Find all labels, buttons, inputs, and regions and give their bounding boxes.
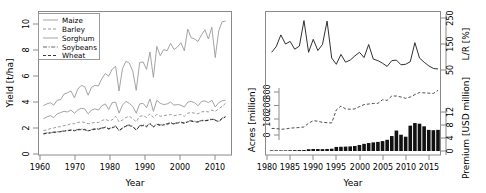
right-panel-xtick-1995: 1995 bbox=[326, 163, 346, 172]
right-panel-lr-tick-150: 150 bbox=[446, 36, 455, 51]
insurance-series-group bbox=[270, 21, 440, 151]
right-panel-x-axis-title: Year bbox=[342, 178, 362, 188]
left-panel-xtick-1970: 1970 bbox=[65, 163, 85, 172]
right-panel-acres-tick-300: 300 bbox=[263, 84, 272, 99]
right-panel-xtick-1990: 1990 bbox=[303, 163, 323, 172]
premium-bar bbox=[358, 145, 362, 151]
legend-label-wheat: Wheat bbox=[62, 51, 85, 60]
left-panel-ytick-4: 4 bbox=[22, 99, 31, 104]
premium-bar bbox=[316, 149, 320, 151]
premium-bar bbox=[307, 149, 311, 151]
left-panel-xtick-2000: 2000 bbox=[170, 163, 190, 172]
premium-bar bbox=[381, 141, 385, 151]
left-panel-y-tickmarks bbox=[33, 24, 38, 154]
premium-bar bbox=[404, 137, 408, 151]
premium-bar bbox=[395, 131, 399, 151]
right-panel-y-axis-title-left: Acres [million] bbox=[247, 88, 257, 153]
premium-bar bbox=[432, 130, 436, 151]
right-panel-acres-tick-200: 200 bbox=[263, 97, 272, 112]
right-panel-acres-tick-0: 0 bbox=[263, 132, 272, 137]
right-panel-xtick-1980: 1980 bbox=[257, 163, 277, 172]
premium-bar bbox=[371, 142, 375, 151]
premium-bar bbox=[293, 150, 297, 151]
left-panel-xtick-1990: 1990 bbox=[135, 163, 155, 172]
right-panel-x-tickmarks bbox=[267, 155, 429, 160]
right-panel-left-tickmarks bbox=[274, 88, 279, 140]
premium-bar bbox=[427, 130, 431, 151]
left-panel-ytick-0: 0 bbox=[22, 151, 31, 156]
left-panel-xtick-1960: 1960 bbox=[30, 163, 50, 172]
left-panel-xtick-1980: 1980 bbox=[100, 163, 120, 172]
crop-yield-panel: Yield [t/ha] 10 8 6 4 2 0 1960 1970 1980… bbox=[0, 0, 243, 193]
premium-bar bbox=[367, 143, 371, 151]
crop-yield-svg: Yield [t/ha] 10 8 6 4 2 0 1960 1970 1980… bbox=[0, 0, 243, 193]
premium-bar bbox=[422, 126, 426, 151]
premium-bar bbox=[348, 146, 352, 151]
right-panel-xtick-2005: 2005 bbox=[373, 163, 393, 172]
right-panel-xtick-2010: 2010 bbox=[396, 163, 416, 172]
premium-bar bbox=[302, 150, 306, 151]
premium-bar bbox=[330, 149, 334, 151]
premium-bar bbox=[436, 130, 440, 151]
premium-bar bbox=[418, 124, 422, 151]
premium-bar bbox=[344, 147, 348, 151]
premium-bar bbox=[413, 123, 417, 151]
premium-bar bbox=[362, 144, 366, 151]
left-panel-y-axis-title: Yield [t/ha] bbox=[5, 58, 15, 108]
right-panel-premium-tick-12: 12 bbox=[446, 107, 455, 117]
legend-label-barley: Barley bbox=[62, 25, 86, 34]
right-panel-xtick-2015: 2015 bbox=[419, 163, 439, 172]
right-panel-acres-tick-100: 100 bbox=[263, 111, 272, 126]
premium-bar bbox=[335, 147, 339, 151]
premium-bar bbox=[376, 142, 380, 151]
two-panel-figure: Yield [t/ha] 10 8 6 4 2 0 1960 1970 1980… bbox=[0, 0, 486, 193]
premium-bar bbox=[284, 150, 288, 151]
premium-bar bbox=[321, 149, 325, 151]
right-panel-premium-tick-4: 4 bbox=[446, 135, 455, 140]
premium-bar bbox=[270, 150, 274, 151]
right-panel-y-axis-title-premium: Premium [USD million] bbox=[461, 77, 471, 179]
left-panel-x-axis-title: Year bbox=[124, 178, 144, 188]
premium-bar bbox=[274, 150, 278, 151]
right-panel-premium-tick-0: 0 bbox=[446, 148, 455, 153]
legend-label-sorghum: Sorghum bbox=[62, 34, 94, 43]
left-panel-ytick-8: 8 bbox=[22, 47, 31, 52]
right-panel-xtick-2000: 2000 bbox=[350, 163, 370, 172]
insurance-panel: Acres [million] 300 200 100 0 1980 1985 … bbox=[243, 0, 486, 193]
premium-bar bbox=[288, 150, 292, 151]
left-panel-x-tickmarks bbox=[40, 155, 215, 160]
premium-bar bbox=[279, 150, 283, 151]
premium-bar bbox=[390, 136, 394, 151]
right-panel-xtick-1985: 1985 bbox=[280, 163, 300, 172]
premium-bar bbox=[339, 147, 343, 151]
insurance-svg: Acres [million] 300 200 100 0 1980 1985 … bbox=[243, 0, 486, 193]
right-panel-lr-tick-250: 250 bbox=[446, 10, 455, 25]
premium-bar bbox=[353, 146, 357, 151]
left-panel-ytick-6: 6 bbox=[22, 73, 31, 78]
left-panel-legend: Maize Barley Sorghum Soybeans Wheat bbox=[39, 14, 100, 61]
left-panel-ytick-2: 2 bbox=[22, 125, 31, 130]
premium-bar bbox=[311, 149, 315, 151]
right-panel-y-axis-title-lr: L/R [%] bbox=[461, 28, 471, 61]
left-panel-ytick-10: 10 bbox=[22, 19, 31, 29]
premium-bar bbox=[408, 126, 412, 151]
premium-bar bbox=[325, 149, 329, 151]
legend-label-maize: Maize bbox=[62, 16, 83, 25]
right-panel-premium-tick-8: 8 bbox=[446, 122, 455, 127]
premium-bar bbox=[298, 150, 302, 151]
premium-bar bbox=[385, 140, 389, 151]
premium-bar bbox=[399, 135, 403, 151]
left-panel-xtick-2010: 2010 bbox=[205, 163, 225, 172]
right-panel-lr-tick-50: 50 bbox=[446, 65, 455, 75]
